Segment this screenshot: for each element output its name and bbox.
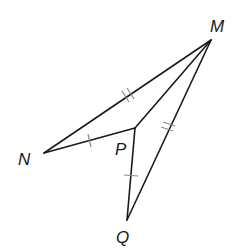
label-p: P [115,140,127,159]
label-n: N [18,150,31,169]
segment-nm [44,40,211,153]
label-q: Q [116,228,129,247]
label-m: M [210,17,225,36]
single-tick-pq [124,175,138,176]
kite-diagram: M N P Q [0,0,244,250]
